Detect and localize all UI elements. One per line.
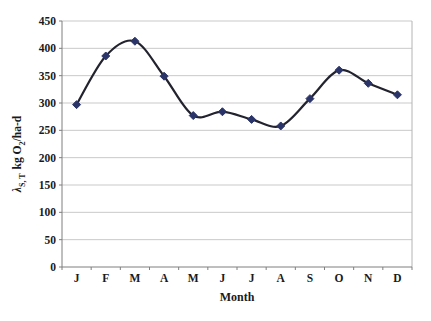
chart-plot: 050100150200250300350400450JFMAMJJASOND — [0, 0, 431, 321]
y-axis-unit-subscript: 2 — [18, 141, 27, 145]
data-point-marker — [335, 66, 343, 74]
x-tick-label: J — [220, 272, 226, 284]
x-tick-label: O — [335, 272, 344, 284]
y-tick-label: 50 — [45, 234, 57, 246]
x-tick-label: N — [364, 272, 373, 284]
data-point-marker — [393, 91, 401, 99]
x-tick-label: S — [307, 272, 313, 284]
y-tick-label: 400 — [39, 42, 57, 54]
y-tick-label: 300 — [39, 97, 57, 109]
y-tick-label: 200 — [39, 152, 57, 164]
x-axis-title: Month — [220, 290, 255, 305]
x-tick-label: J — [74, 272, 80, 284]
y-tick-label: 450 — [39, 15, 57, 27]
y-tick-label: 100 — [39, 206, 57, 218]
chart-figure: 050100150200250300350400450JFMAMJJASOND … — [0, 0, 431, 321]
x-tick-label: M — [188, 272, 199, 284]
data-point-marker — [131, 37, 139, 45]
y-tick-label: 350 — [39, 70, 57, 82]
x-tick-label: J — [249, 272, 255, 284]
y-tick-label: 0 — [50, 261, 56, 273]
data-point-marker — [277, 122, 285, 130]
y-axis-symbol: λ — [11, 187, 23, 192]
x-tick-label: D — [393, 272, 401, 284]
y-axis-title: λS, Tkg O2/ha-d — [11, 116, 26, 192]
y-tick-label: 250 — [39, 124, 57, 136]
x-tick-label: M — [129, 272, 140, 284]
y-axis-unit: kg O — [11, 145, 23, 169]
x-tick-label: F — [102, 272, 109, 284]
y-axis-unit-suffix: /ha-d — [11, 116, 23, 142]
y-tick-label: 150 — [39, 179, 57, 191]
data-point-marker — [248, 115, 256, 123]
x-tick-label: A — [277, 272, 286, 284]
x-tick-label: A — [160, 272, 169, 284]
data-point-marker — [364, 79, 372, 87]
series-line — [77, 40, 398, 126]
y-axis-symbol-subscript: S, T — [18, 173, 27, 187]
data-point-marker — [218, 108, 226, 116]
